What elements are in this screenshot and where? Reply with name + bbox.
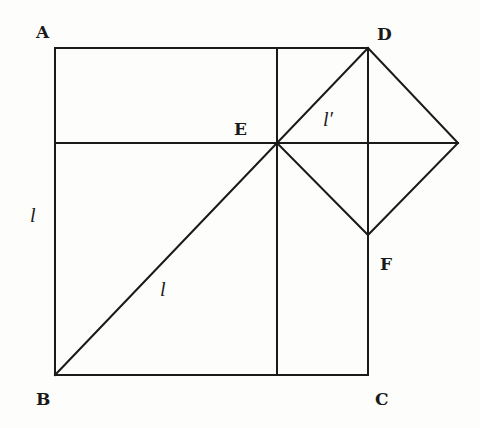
label-A: A: [35, 22, 50, 42]
label-B: B: [36, 389, 50, 409]
label-C: C: [375, 389, 389, 409]
geometry-diagram: A D E F B C l l l′: [0, 0, 480, 428]
label-D: D: [377, 24, 392, 44]
label-diagonal-l-prime: l′: [323, 108, 334, 130]
label-side-l: l: [30, 204, 36, 226]
label-diagonal-l: l: [160, 278, 166, 300]
label-F: F: [380, 254, 392, 274]
label-E: E: [234, 119, 247, 139]
segment-BE: [55, 143, 277, 375]
